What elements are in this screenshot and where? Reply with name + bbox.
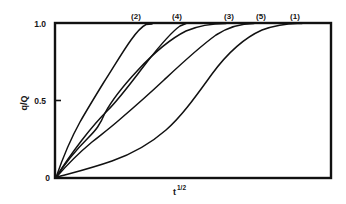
y-axis-title: q/Q bbox=[19, 96, 29, 111]
y-tick-label-top: 1.0 bbox=[34, 19, 46, 29]
curve-5 bbox=[56, 24, 254, 178]
curve-label-4: (4) bbox=[172, 12, 182, 21]
y-tick-label-mid: 0.5 bbox=[34, 96, 46, 106]
x-axis-title-exponent: 1/2 bbox=[177, 184, 186, 191]
curve-4 bbox=[56, 24, 186, 178]
curve-label-5: (5) bbox=[256, 12, 266, 21]
curve-label-3: (3) bbox=[224, 12, 234, 21]
curve-label-1: (1) bbox=[290, 12, 300, 21]
chart-figure: 1.0 0.5 0 q/Q t 1/2 (2) (4) (3) (5) (1) bbox=[0, 0, 346, 204]
chart-screenshot: 1.0 0.5 0 q/Q t 1/2 (2) (4) (3) (5) (1) bbox=[0, 0, 346, 204]
curve-label-2: (2) bbox=[131, 12, 141, 21]
y-tick-label-bottom: 0 bbox=[45, 173, 50, 183]
x-axis-title-base: t bbox=[173, 187, 176, 197]
